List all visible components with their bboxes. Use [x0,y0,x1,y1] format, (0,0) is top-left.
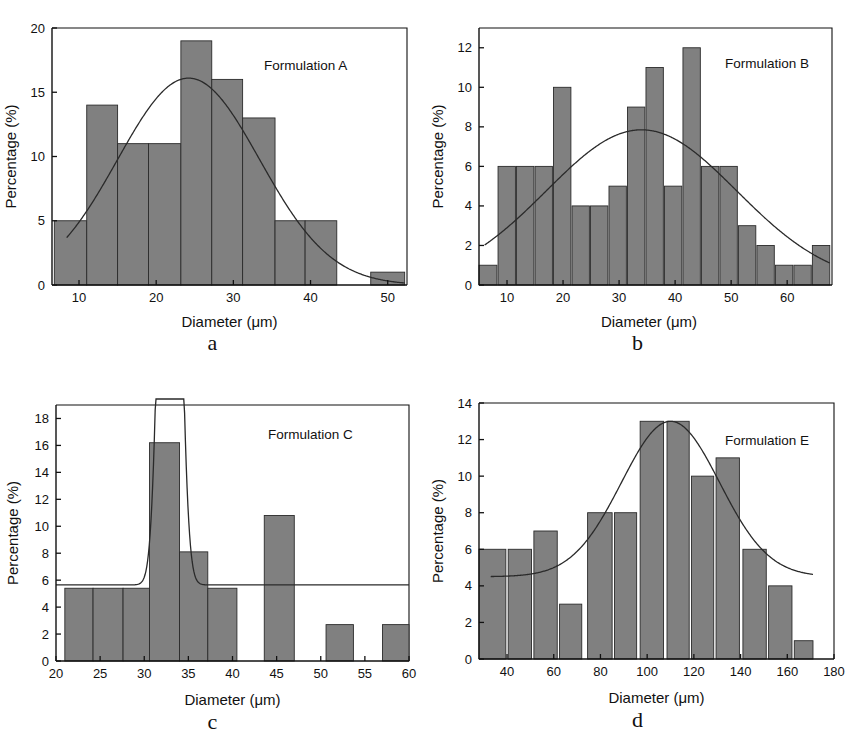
y-tick-label: 14 [458,396,472,411]
y-tick-label: 4 [42,600,49,615]
panel-caption-a: a [0,330,425,356]
series-label: Formulation A [264,58,347,73]
histogram-bar [664,186,681,285]
histogram-bar [572,206,589,285]
y-axis-ticks: 024681012 [458,40,484,292]
y-tick-label: 18 [35,411,49,426]
x-axis-title-text: Diameter (μm) [608,689,704,706]
x-tick-label: 180 [823,664,845,679]
y-tick-label: 10 [458,80,472,95]
histogram-bar [667,421,689,659]
histogram-bar [65,588,93,661]
x-axis-title-text: Diameter (μm) [184,691,280,708]
histogram-bar [243,118,275,285]
histogram-bar [720,166,737,285]
histogram-bar [148,144,180,285]
x-tick-label: 40 [303,290,317,305]
histogram-bar [479,549,506,659]
y-tick-label: 2 [465,238,472,253]
histogram-bar [614,513,636,659]
x-tick-label: 55 [358,666,372,681]
y-axis-title: Percentage (%) [429,104,446,208]
y-axis-ticks: 05101520 [31,21,57,293]
y-tick-label: 12 [35,492,49,507]
histogram-bar [118,144,149,285]
histogram-bar [757,245,774,285]
histogram-bar [609,186,626,285]
histogram-bar [769,586,792,659]
histogram-bar [326,625,353,661]
x-tick-label: 50 [314,666,328,681]
x-tick-label: 50 [724,290,738,305]
y-tick-label: 10 [31,149,45,164]
y-tick-label: 10 [458,469,472,484]
bar-group [54,41,404,285]
histogram-bar [123,588,149,661]
histogram-bar [701,166,718,285]
x-tick-label: 40 [668,290,682,305]
histogram-bar [181,41,212,285]
histogram-bar [498,166,515,285]
x-tick-label: 120 [683,664,705,679]
x-tick-label: 60 [780,290,794,305]
y-axis-title: Percentage (%) [2,104,19,208]
histogram-bar [812,245,829,285]
x-tick-label: 40 [500,664,514,679]
chart-a: 051015201020304050Diameter (μm)Percentag… [0,0,425,330]
histogram-bar [54,221,86,285]
histogram-bar [646,68,663,285]
x-tick-label: 60 [402,666,416,681]
x-tick-label: 10 [72,290,86,305]
x-axis-title-text: Diameter (μm) [601,313,697,330]
y-tick-label: 6 [465,159,472,174]
histogram-bar [775,265,792,285]
histogram-bar [208,588,237,661]
series-label: Formulation B [725,56,809,71]
histogram-bar [554,87,571,285]
y-tick-label: 5 [38,213,45,228]
series-label: Formulation C [268,427,353,442]
x-tick-label: 30 [137,666,151,681]
chart-d: 02468101214406080100120140160180Diameter… [425,377,850,707]
y-tick-label: 8 [465,505,472,520]
y-tick-label: 16 [35,438,49,453]
histogram-bar [150,443,180,661]
y-tick-label: 4 [465,198,472,213]
x-axis-title: Diameter (μm) [601,313,697,330]
bar-group [479,48,830,285]
y-tick-label: 8 [465,119,472,134]
x-tick-label: 20 [556,290,570,305]
panel-caption-d: d [425,707,850,733]
x-axis-title: Diameter (μm) [608,689,704,706]
histogram-bar [560,604,582,659]
x-tick-label: 30 [612,290,626,305]
histogram-bar [591,206,608,285]
y-tick-label: 20 [31,21,45,36]
y-tick-label: 12 [458,432,472,447]
x-tick-label: 10 [500,290,514,305]
panel-caption-b: b [425,330,850,356]
y-tick-label: 14 [35,465,49,480]
x-tick-label: 35 [181,666,195,681]
histogram-bar [683,48,700,285]
panel-d: 02468101214406080100120140160180Diameter… [425,377,850,754]
chart-c: 024681012141618202530354045505560Diamete… [0,377,425,709]
histogram-bar [305,221,337,285]
x-tick-label: 60 [547,664,561,679]
histogram-bar [517,166,534,285]
histogram-bar [794,641,813,659]
series-label: Formulation E [725,433,809,448]
y-tick-label: 2 [42,627,49,642]
histogram-bar [640,421,663,659]
histogram-bar [212,79,243,285]
chart-b: 024681012102030405060Diameter (μm)Percen… [425,0,850,330]
x-tick-label: 100 [636,664,658,679]
histogram-bar [535,166,552,285]
x-tick-label: 160 [776,664,798,679]
y-tick-label: 6 [42,573,49,588]
x-tick-label: 25 [93,666,107,681]
y-axis-title: Percentage (%) [429,479,446,583]
histogram-bar [479,265,497,285]
x-axis-title-text: Diameter (μm) [181,313,277,330]
histogram-bar [264,515,294,661]
